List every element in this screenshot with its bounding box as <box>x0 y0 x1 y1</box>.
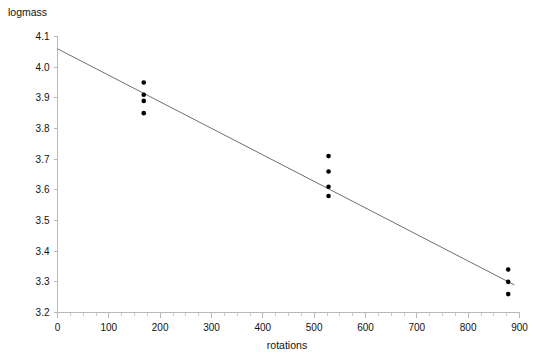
y-tick-label: 3.8 <box>36 123 50 134</box>
data-point <box>506 292 511 297</box>
regression-line <box>58 49 515 285</box>
x-tick-label: 300 <box>203 322 220 333</box>
x-tick-label: 100 <box>100 322 117 333</box>
x-tick-label: 700 <box>408 322 425 333</box>
data-point <box>326 154 331 159</box>
data-point <box>326 194 331 199</box>
y-tick-label: 3.7 <box>36 154 50 165</box>
x-tick-label: 200 <box>152 322 169 333</box>
y-tick-label: 3.3 <box>36 276 50 287</box>
y-tick-label: 3.4 <box>36 246 50 257</box>
data-point <box>141 92 146 97</box>
data-point <box>326 169 331 174</box>
y-tick-label: 3.6 <box>36 184 50 195</box>
y-axis: 3.23.33.43.53.63.73.83.94.04.1 <box>36 31 58 318</box>
y-tick-label: 4.0 <box>36 62 50 73</box>
data-point <box>141 111 146 116</box>
data-point <box>141 99 146 104</box>
data-point <box>506 267 511 272</box>
y-tick-label: 4.1 <box>36 31 50 42</box>
data-point <box>326 184 331 189</box>
scatter-plot-figure: logmass rotations 3.23.33.43.53.63.73.83… <box>0 0 533 358</box>
x-tick-label: 900 <box>511 322 528 333</box>
y-tick-label: 3.5 <box>36 215 50 226</box>
y-axis-title: logmass <box>8 6 47 18</box>
data-points <box>141 80 510 296</box>
data-point <box>506 280 511 285</box>
x-axis-title-group: rotations <box>267 339 307 351</box>
plot-canvas: logmass rotations 3.23.33.43.53.63.73.83… <box>0 0 533 358</box>
fit-line <box>58 49 515 285</box>
x-tick-label: 600 <box>357 322 374 333</box>
data-point <box>141 80 146 85</box>
x-axis: 0100200300400500600700800900 <box>55 313 529 333</box>
x-tick-label: 0 <box>55 322 61 333</box>
x-tick-label: 800 <box>460 322 477 333</box>
x-axis-title: rotations <box>267 339 307 351</box>
y-tick-label: 3.2 <box>36 307 50 318</box>
x-tick-label: 500 <box>306 322 323 333</box>
y-tick-label: 3.9 <box>36 92 50 103</box>
x-tick-label: 400 <box>254 322 271 333</box>
y-axis-title-group: logmass <box>8 6 47 18</box>
